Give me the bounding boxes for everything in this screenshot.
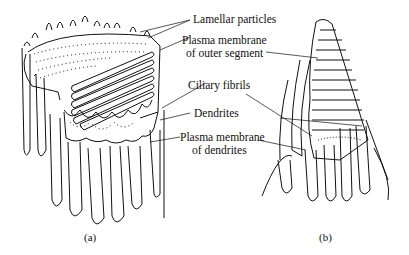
- label-dendrites: Dendrites: [194, 107, 239, 119]
- label-plasma-membrane-outer-line1: Plasma membrane: [182, 34, 267, 46]
- caption-b: (b): [319, 231, 332, 243]
- caption-a: (a): [84, 231, 96, 243]
- label-plasma-membrane-outer-line2: of outer segment: [186, 47, 263, 59]
- label-plasma-membrane-dendrites-line1: Plasma membrane: [180, 131, 265, 143]
- dendrites-b: [262, 126, 389, 201]
- outer-segment-b: [280, 19, 388, 180]
- label-lamellar-particles: Lamellar particles: [193, 13, 276, 25]
- label-plasma-membrane-dendrites-line2: of dendrites: [192, 144, 247, 156]
- lamellae-a: [71, 52, 154, 130]
- lamellar-tips-a: [24, 16, 150, 46]
- label-ciliary-fibrils: Ciliary fibrils: [188, 79, 250, 91]
